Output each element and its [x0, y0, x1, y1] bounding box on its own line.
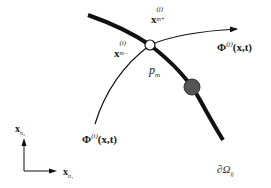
- label-sup: (i): [120, 40, 127, 47]
- crossing-point-node: [145, 40, 155, 50]
- label-sup: (j): [157, 6, 164, 13]
- label-p-m: pm: [149, 64, 160, 76]
- label-x-m-plus: x(j)m+: [151, 11, 167, 25]
- label-sub: n₂: [20, 130, 25, 136]
- label-axis-y: xn₂: [15, 124, 25, 134]
- label-phi-i: Φ(i)(x,t): [82, 134, 117, 145]
- label-args: (x,t): [233, 41, 252, 53]
- label-sub: m−: [120, 50, 128, 56]
- label-sub: m+: [157, 16, 165, 22]
- axis-x-arrow-icon: [49, 169, 57, 174]
- label-sub: n₁: [68, 173, 73, 179]
- label-base: Φ: [82, 133, 91, 145]
- label-sup: (i): [91, 132, 98, 140]
- label-phi-j: Φ(j)(x,t): [217, 42, 252, 53]
- label-args: (x,t): [98, 133, 117, 145]
- boundary-node: [184, 79, 200, 95]
- label-axis-x: xn₁: [63, 167, 73, 177]
- label-sub: m: [155, 71, 160, 79]
- label-x-m-minus: x(i)m−: [114, 45, 130, 59]
- diagram-canvas: [0, 0, 271, 188]
- axis-y-arrow-icon: [22, 138, 27, 146]
- label-base: ∂Ω: [217, 163, 230, 175]
- label-boundary: ∂Ωij: [217, 164, 234, 175]
- label-sup: (j): [226, 40, 233, 48]
- label-base: Φ: [217, 41, 226, 53]
- label-sub: ij: [230, 171, 233, 177]
